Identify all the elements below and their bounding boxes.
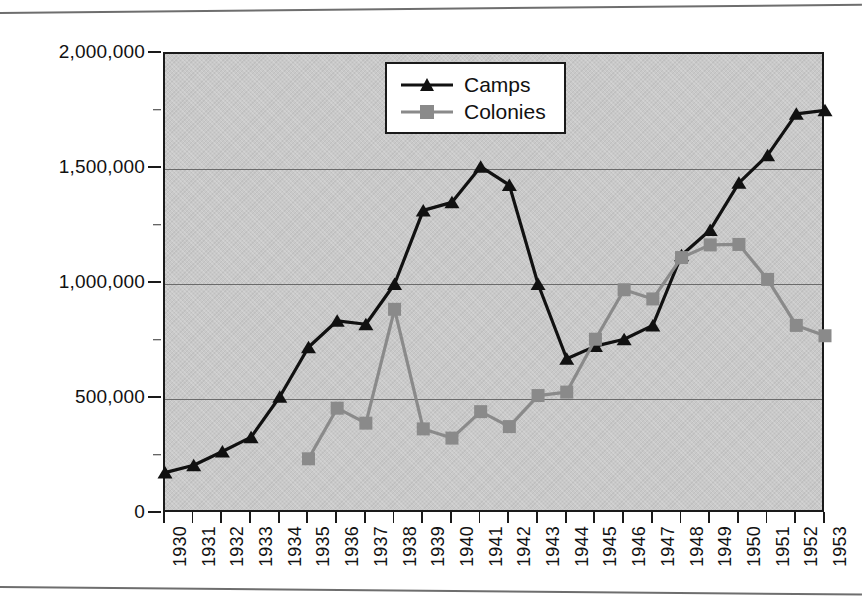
y-axis-tick — [148, 51, 161, 53]
line-chart: 0500,0001,000,0001,500,0002,000,000 1930… — [0, 0, 862, 610]
x-axis-tick-label: 1948 — [687, 526, 708, 567]
data-point-marker — [302, 452, 315, 465]
data-point-marker — [646, 292, 659, 305]
x-axis-tick — [249, 512, 251, 523]
data-point-marker — [589, 333, 602, 346]
x-axis-tick — [507, 512, 509, 523]
data-point-marker — [359, 417, 372, 430]
x-axis-tick — [163, 512, 165, 523]
data-point-marker — [703, 223, 718, 236]
x-axis-tick-label: 1949 — [715, 526, 736, 567]
data-point-marker — [474, 405, 487, 418]
y-axis-minor-tick — [153, 109, 161, 111]
x-axis-tick-label: 1942 — [514, 526, 535, 567]
x-axis-labels: 1930193119321933193419351936193719381939… — [163, 526, 824, 606]
y-axis-tick — [148, 166, 161, 168]
series-colonies — [302, 238, 832, 465]
data-point-marker — [532, 389, 545, 402]
y-axis-tick — [148, 511, 161, 513]
x-axis-tick — [536, 512, 538, 523]
x-axis-tick-label: 1945 — [600, 526, 621, 567]
data-point-marker — [560, 386, 573, 399]
y-axis-tick-label: 1,000,000 — [59, 271, 145, 293]
y-axis-tick — [148, 396, 161, 398]
x-axis-tick-label: 1936 — [342, 526, 363, 567]
x-axis-tick — [278, 512, 280, 523]
legend-label-camps: Camps — [464, 74, 531, 95]
data-point-marker — [272, 390, 287, 403]
data-point-marker — [790, 319, 803, 332]
data-point-marker — [761, 273, 774, 286]
x-axis-tick — [335, 512, 337, 523]
y-axis-minor-tick — [153, 454, 161, 456]
legend-marker-square-icon — [399, 102, 455, 122]
x-axis-tick — [737, 512, 739, 523]
data-point-marker — [388, 303, 401, 316]
x-axis-tick-label: 1946 — [629, 526, 650, 567]
x-axis-tick-label: 1933 — [256, 526, 277, 567]
y-axis-tick-label: 0 — [134, 501, 145, 523]
x-axis-tick-label: 1953 — [830, 526, 851, 567]
x-axis-tick — [364, 512, 366, 523]
x-axis-tick-label: 1930 — [170, 526, 191, 567]
legend-item-camps: Camps — [399, 71, 546, 98]
x-axis-tick — [192, 512, 194, 523]
y-axis-tick-label: 1,500,000 — [59, 156, 145, 178]
x-axis-tick-label: 1934 — [285, 526, 306, 567]
x-axis-tick-label: 1947 — [658, 526, 679, 567]
x-axis-tick-label: 1944 — [572, 526, 593, 567]
x-axis-tick — [708, 512, 710, 523]
x-axis-ticks — [163, 512, 824, 524]
x-axis-tick — [393, 512, 395, 523]
data-point-marker — [760, 149, 775, 162]
x-axis-tick — [421, 512, 423, 523]
x-axis-tick — [220, 512, 222, 523]
data-point-marker — [331, 402, 344, 415]
data-point-marker — [559, 352, 574, 365]
y-axis-tick-label: 2,000,000 — [59, 41, 145, 63]
x-axis-tick-label: 1939 — [428, 526, 449, 567]
x-axis-tick — [794, 512, 796, 523]
x-axis-tick — [306, 512, 308, 523]
data-point-marker — [445, 432, 458, 445]
chart-page: 0500,0001,000,0001,500,0002,000,000 1930… — [0, 0, 862, 610]
legend-item-colonies: Colonies — [399, 98, 546, 125]
x-axis-tick-label: 1932 — [227, 526, 248, 567]
data-point-marker — [675, 251, 688, 264]
data-point-marker — [244, 431, 259, 444]
y-axis-minor-tick — [153, 339, 161, 341]
y-axis: 0500,0001,000,0001,500,0002,000,000 — [0, 0, 163, 610]
data-point-marker — [645, 319, 660, 332]
x-axis-tick — [823, 512, 825, 523]
chart-legend: Camps Colonies — [385, 62, 566, 134]
x-axis-tick-label: 1935 — [313, 526, 334, 567]
x-axis-tick-label: 1951 — [773, 526, 794, 567]
x-axis-tick — [680, 512, 682, 523]
x-axis-tick — [593, 512, 595, 523]
x-axis-tick — [651, 512, 653, 523]
x-axis-tick — [479, 512, 481, 523]
x-axis-tick-label: 1950 — [744, 526, 765, 567]
data-point-marker — [215, 445, 230, 458]
x-axis-tick-label: 1937 — [371, 526, 392, 567]
x-axis-tick-label: 1938 — [400, 526, 421, 567]
data-point-marker — [618, 283, 631, 296]
x-axis-tick-label: 1943 — [543, 526, 564, 567]
y-axis-minor-tick — [153, 224, 161, 226]
data-point-marker — [732, 238, 745, 251]
series-camps — [158, 104, 833, 479]
data-point-marker — [531, 278, 546, 291]
data-point-marker — [387, 278, 402, 291]
y-axis-tick — [148, 281, 161, 283]
x-axis-tick-label: 1940 — [457, 526, 478, 567]
data-point-marker — [473, 160, 488, 173]
data-point-marker — [704, 238, 717, 251]
data-point-marker — [819, 329, 832, 342]
x-axis-tick-label: 1931 — [199, 526, 220, 567]
y-axis-tick-label: 500,000 — [75, 386, 145, 408]
x-axis-tick — [565, 512, 567, 523]
series-line — [308, 244, 825, 458]
x-axis-tick — [450, 512, 452, 523]
legend-label-colonies: Colonies — [464, 101, 546, 122]
data-point-marker — [417, 422, 430, 435]
